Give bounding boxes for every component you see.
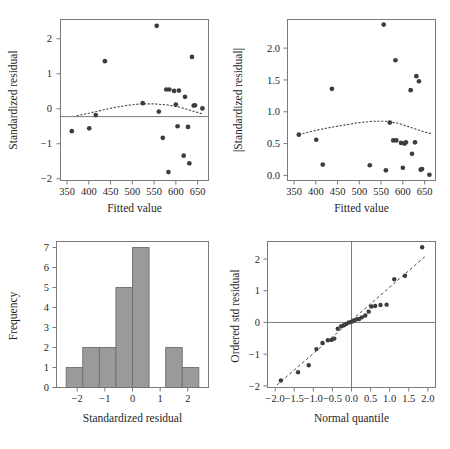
data-point [166,170,171,175]
axis-tick-label: 450 [330,186,346,197]
axis-tick-label: −1 [249,349,260,360]
axis-tick-label: 500 [351,186,367,197]
histogram-bars [66,248,199,388]
data-point [172,89,177,94]
histogram-bar [99,348,116,388]
x-axis-title: Normal quantile [314,412,389,425]
x-axis-title: Standardized residual [83,412,182,424]
data-point [167,87,172,92]
x-axis-tick-labels: −2.0−1.5−1.0−0.50.00.51.01.52.0 [266,393,435,404]
axis-tick-label: 1 [158,393,163,404]
axis-tick-label: 500 [124,186,140,197]
data-point [373,304,377,308]
axis-tick-label: 350 [286,186,302,197]
data-point [200,106,205,111]
data-point [403,274,407,278]
data-point [157,109,162,114]
plot-frame [288,20,436,181]
data-point [190,55,195,60]
axis-tick-label: 1.5 [267,75,280,86]
axis-tick-label: −2.0 [266,393,285,404]
x-axis-title: Fitted value [107,202,162,214]
axis-tick-label: 3 [44,322,49,333]
data-point [387,120,392,125]
data-point [154,23,159,28]
data-point [320,162,325,167]
data-point [140,101,145,106]
x-axis-ticks [294,181,425,185]
plot-frame [61,20,209,181]
histogram-bar [133,248,150,388]
histogram-bar [166,348,183,388]
data-point [404,140,409,145]
data-point [394,138,399,143]
data-point [384,302,388,306]
axis-tick-label: 2 [185,393,190,404]
data-point [420,245,424,249]
data-point [183,95,188,100]
axis-tick-label: 350 [59,186,75,197]
data-point [314,137,319,142]
axis-tick-label: 2 [255,254,260,265]
axis-tick-label: −1 [99,393,110,404]
x-axis-ticks [77,388,188,392]
scatter-points [69,23,204,174]
data-point [307,363,311,367]
y-axis-tick-labels: 0.00.51.01.52.0 [267,43,280,181]
data-point [392,277,396,281]
axis-tick-label: 0 [44,382,49,393]
normal-qq-svg: −2−1012 −2.0−1.5−1.0−0.50.00.51.01.52.0 … [225,224,450,449]
axis-tick-label: 1.0 [267,106,280,117]
y-axis-tick-labels: −2−1012 [41,33,52,184]
axis-tick-label: 650 [190,186,206,197]
scatter-points [296,22,431,177]
data-point [103,59,108,64]
axis-tick-label: −1 [41,138,52,149]
axis-tick-label: 0.5 [267,138,280,149]
axis-tick-label: 650 [417,186,433,197]
axis-tick-label: 2.0 [267,43,280,54]
axis-tick-label: −2 [41,173,52,184]
axis-tick-label: 0 [130,393,135,404]
panel-histogram-of-residuals: 01234567 −2−1012 Standardized residual F… [0,224,225,449]
data-point [314,347,318,351]
axis-tick-label: 550 [373,186,389,197]
axis-tick-label: 0 [255,317,260,328]
axis-tick-label: 2.0 [421,393,434,404]
data-point [381,22,386,27]
data-point [410,151,415,156]
axis-tick-label: 5 [44,282,49,293]
axis-tick-label: −1.5 [285,393,304,404]
data-point [193,103,198,108]
data-point [296,370,300,374]
data-point [175,124,180,129]
histogram-bar [66,368,83,388]
y-axis-title: Frequency [7,291,20,340]
diagnostics-figure: −2−1012 350400450500550600650 Fitted val… [0,0,450,449]
axis-tick-label: 450 [103,186,119,197]
histogram-bar [182,368,199,388]
axis-tick-label: 7 [44,242,49,253]
data-point [174,102,179,107]
y-axis-ticks [284,48,288,175]
histogram-bar [116,288,133,388]
data-point [93,113,98,118]
panel-normal-qq-plot: −2−1012 −2.0−1.5−1.0−0.50.00.51.01.52.0 … [225,224,450,449]
axis-tick-label: 2 [47,33,52,44]
data-point [413,140,418,145]
data-point [367,163,372,168]
data-point [369,304,373,308]
data-point [414,74,419,79]
axis-tick-label: 4 [44,302,50,313]
y-axis-ticks [57,39,61,179]
data-point [417,79,422,84]
y-axis-title: Standardized residual [7,50,19,149]
data-point [363,313,367,317]
loess-smoother [299,121,431,134]
axis-tick-label: 0.5 [364,393,377,404]
data-point [181,153,186,158]
data-point [186,125,191,130]
data-point [378,303,382,307]
histogram-svg: 01234567 −2−1012 Standardized residual F… [0,224,225,449]
y-axis-title: Ordered std residual [229,269,241,362]
